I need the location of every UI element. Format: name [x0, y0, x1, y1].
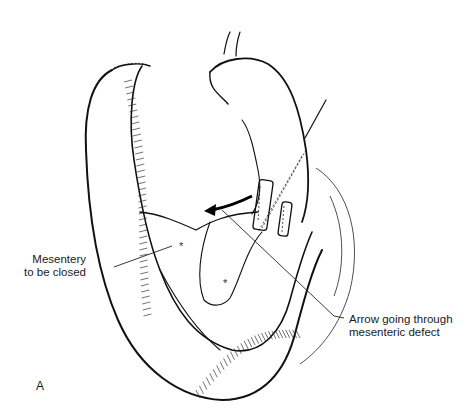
- hatch-stroke: [265, 332, 269, 340]
- arrow-label-line2: mesenteric defect: [349, 326, 453, 339]
- hatch-stroke: [244, 341, 248, 349]
- hatch-stroke: [139, 248, 147, 250]
- hatch-stroke: [141, 290, 149, 292]
- hatch-stroke: [203, 382, 207, 390]
- hatch-stroke: [139, 236, 147, 238]
- panel-label: A: [36, 380, 44, 393]
- hatch-stroke: [262, 333, 266, 341]
- hatch-stroke: [258, 334, 262, 342]
- hatch-stroke: [289, 330, 293, 338]
- mesentery-marker: *: [179, 240, 184, 252]
- hatch-stroke: [237, 346, 241, 354]
- defect-marker: *: [223, 277, 228, 289]
- hatch-stroke: [139, 230, 147, 232]
- hatch-stroke: [140, 278, 148, 280]
- hatch-stroke: [275, 330, 279, 338]
- hatch-stroke: [210, 373, 214, 381]
- hatch-stroke: [136, 164, 144, 166]
- hatch-stroke: [220, 362, 224, 370]
- hatch-stroke: [282, 330, 286, 338]
- hatch-stroke: [135, 146, 143, 148]
- hatch-stroke: [140, 272, 148, 274]
- hatch-stroke: [142, 302, 150, 304]
- hatch-stroke: [141, 284, 149, 286]
- hatch-stroke: [124, 80, 132, 82]
- hatch-stroke: [255, 336, 259, 344]
- mesentery: [140, 212, 262, 350]
- mesentery-label-line2: to be closed: [24, 266, 86, 279]
- stapled-ends: [253, 179, 293, 236]
- hatch-stroke: [129, 110, 137, 112]
- hatch-stroke: [127, 98, 135, 100]
- hatch-stroke: [143, 314, 151, 316]
- hatch-stroke: [140, 260, 148, 262]
- hatch-stroke: [279, 330, 283, 338]
- hatch-stroke: [137, 170, 145, 172]
- hatch-stroke: [251, 337, 255, 345]
- hatch-stroke: [140, 266, 148, 268]
- hatch-stroke: [199, 386, 203, 394]
- hatch-stroke: [133, 134, 141, 136]
- hatch-stroke: [138, 200, 146, 202]
- hatch-stroke: [134, 140, 142, 142]
- hatch-stroke: [248, 339, 252, 347]
- arrow-label: Arrow going through mesenteric defect: [349, 313, 453, 339]
- arrow-label-line1: Arrow going through: [349, 313, 453, 326]
- hatch-stroke: [217, 365, 221, 373]
- hatch-stroke: [142, 296, 150, 298]
- hatch-stroke: [139, 242, 147, 244]
- hatch-stroke: [230, 352, 234, 360]
- mesentery-label: Mesentery to be closed: [24, 253, 86, 279]
- hatch-stroke: [132, 128, 140, 130]
- mesentery-label-line1: Mesentery: [24, 253, 86, 266]
- intestine-illustration: * *: [0, 0, 474, 413]
- hatch-stroke: [143, 308, 151, 310]
- hatch-stroke: [125, 86, 133, 88]
- hatch-stroke: [136, 158, 144, 160]
- hatch-stroke: [135, 152, 143, 154]
- bowel-loop: [86, 63, 322, 400]
- bowel-hatching: [124, 80, 151, 316]
- hatch-stroke: [224, 358, 228, 366]
- hatch-stroke: [206, 377, 210, 385]
- hatch-stroke: [227, 355, 231, 363]
- hatch-stroke: [131, 122, 139, 124]
- hatch-stroke: [296, 330, 300, 338]
- hatch-stroke: [137, 176, 145, 178]
- hatch-stroke: [286, 330, 290, 338]
- upper-bowel: [210, 32, 326, 232]
- hatch-stroke: [138, 182, 146, 184]
- hatch-stroke: [213, 369, 217, 377]
